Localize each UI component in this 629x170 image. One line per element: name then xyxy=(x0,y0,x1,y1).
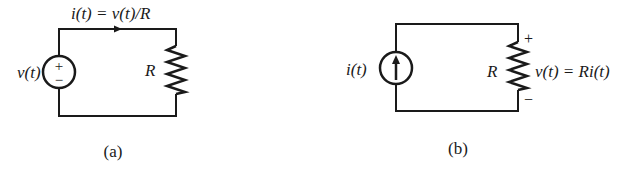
wire-a xyxy=(59,29,176,56)
resistor-icon xyxy=(167,46,185,94)
circuit-b xyxy=(380,24,527,111)
circuit-a xyxy=(43,26,185,117)
current-arrow-icon xyxy=(114,26,122,33)
source-label-a: v(t) xyxy=(17,63,41,82)
wire-a-bottom xyxy=(59,88,176,116)
current-label-a: i(t) = v(t)/R xyxy=(71,4,151,23)
voltage-label-b: v(t) = Ri(t) xyxy=(535,62,610,81)
source-label-b: i(t) xyxy=(346,60,367,79)
source-polarity-minus: − xyxy=(55,72,63,88)
circuit-diagram: + − v(t) R i(t) = v(t)/R (a) i(t) R + − … xyxy=(0,0,629,170)
up-arrow-icon xyxy=(392,55,400,64)
resistor-label-a: R xyxy=(144,61,156,80)
wire-b xyxy=(396,24,518,52)
wire-b-bottom xyxy=(396,84,518,111)
resistor-icon xyxy=(509,42,527,90)
resistor-label-b: R xyxy=(486,62,498,81)
caption-b: (b) xyxy=(448,139,468,158)
voltage-polarity-minus: − xyxy=(524,91,533,108)
voltage-polarity-plus: + xyxy=(524,30,533,47)
caption-a: (a) xyxy=(104,142,123,161)
